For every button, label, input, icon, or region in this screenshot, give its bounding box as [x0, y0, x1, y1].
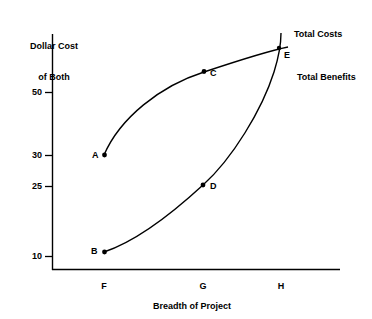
- data-point-label-e: E: [284, 50, 290, 60]
- data-point-label-a: A: [92, 150, 99, 160]
- y-tick-label-50: 50: [12, 87, 42, 97]
- x-tick-label-f: F: [94, 281, 114, 291]
- x-axis-title: Breadth of Project: [112, 301, 272, 311]
- x-tick-label-h: H: [271, 281, 291, 291]
- data-point-a-marker: [102, 153, 107, 158]
- data-point-label-c: C: [210, 68, 217, 78]
- data-point-d-marker: [201, 183, 206, 188]
- data-point-c-marker: [202, 69, 207, 74]
- x-tick-label-g: G: [193, 281, 213, 291]
- series-label-total-costs: Total Costs: [294, 29, 342, 39]
- y-tick-label-30: 30: [12, 150, 42, 160]
- data-point-label-d: D: [210, 181, 217, 191]
- y-axis-title-line2: of Both: [14, 72, 94, 82]
- y-axis-title-line1: Dollar Cost: [14, 41, 94, 51]
- series-label-total-benefits: Total Benefits: [297, 72, 356, 82]
- chart-figure: Dollar Cost of Both 50 30 25 10 F G H Br…: [0, 0, 372, 319]
- series-total-benefits-curve: [104, 47, 288, 155]
- data-point-e-marker: [277, 46, 281, 50]
- series-total-costs-curve: [104, 33, 281, 252]
- y-tick-label-25: 25: [12, 181, 42, 191]
- data-point-b-marker: [102, 250, 107, 255]
- data-point-label-b: B: [91, 246, 98, 256]
- y-tick-label-10: 10: [12, 251, 42, 261]
